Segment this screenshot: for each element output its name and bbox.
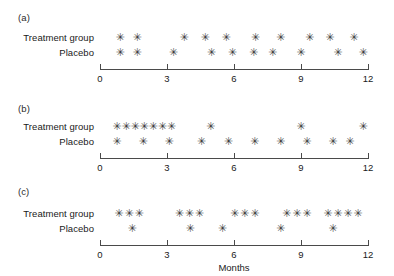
event-marker-placebo: ✳ [302, 136, 311, 147]
x-axis-tick [301, 64, 302, 70]
event-marker-treatment: ✳ [250, 208, 259, 219]
event-marker-treatment: ✳ [140, 121, 149, 132]
x-axis-tick-label: 12 [363, 73, 374, 84]
event-marker-treatment: ✳ [201, 32, 210, 43]
x-axis-tick-label: 6 [231, 73, 236, 84]
event-marker-placebo: ✳ [276, 136, 285, 147]
panel-b: (b) Treatment group Placebo ✳✳✳✳✳✳✳✳✳✳✳✳… [0, 95, 394, 185]
event-marker-placebo: ✳ [328, 136, 337, 147]
event-marker-placebo: ✳ [276, 223, 285, 234]
panel-c-plot: ✳✳✳✳✳✳✳✳✳✳✳✳✳✳✳✳✳✳✳✳✳036912 [0, 180, 394, 276]
event-marker-treatment: ✳ [282, 208, 291, 219]
event-marker-treatment: ✳ [132, 32, 141, 43]
x-axis-tick [234, 240, 235, 246]
event-marker-treatment: ✳ [222, 32, 231, 43]
event-marker-treatment: ✳ [115, 32, 124, 43]
event-marker-treatment: ✳ [114, 208, 123, 219]
x-axis-tick [368, 64, 369, 70]
event-marker-treatment: ✳ [175, 208, 184, 219]
event-marker-treatment: ✳ [180, 32, 189, 43]
panel-a-plot: ✳✳✳✳✳✳✳✳✳✳✳✳✳✳✳✳✳✳✳✳036912 [0, 0, 394, 95]
event-marker-treatment: ✳ [325, 32, 334, 43]
event-marker-placebo: ✳ [115, 47, 124, 58]
event-marker-placebo: ✳ [358, 47, 367, 58]
event-marker-treatment: ✳ [349, 32, 358, 43]
event-marker-placebo: ✳ [169, 47, 178, 58]
event-marker-treatment: ✳ [130, 121, 139, 132]
x-axis-tick-label: 12 [363, 249, 374, 260]
x-axis-tick-label: 9 [298, 162, 303, 173]
x-axis-tick-label: 0 [97, 73, 102, 84]
x-axis-tick [234, 64, 235, 70]
event-marker-placebo: ✳ [186, 223, 195, 234]
event-marker-placebo: ✳ [197, 136, 206, 147]
event-marker-treatment: ✳ [333, 208, 342, 219]
event-marker-treatment: ✳ [134, 208, 143, 219]
event-marker-placebo: ✳ [250, 136, 259, 147]
event-marker-treatment: ✳ [323, 208, 332, 219]
x-axis-tick [301, 153, 302, 159]
x-axis-tick [234, 153, 235, 159]
x-axis-tick [368, 153, 369, 159]
event-marker-placebo: ✳ [268, 47, 277, 58]
event-marker-placebo: ✳ [207, 47, 216, 58]
event-marker-treatment: ✳ [185, 208, 194, 219]
event-marker-placebo: ✳ [112, 136, 121, 147]
x-axis-tick [167, 64, 168, 70]
event-marker-treatment: ✳ [149, 121, 158, 132]
x-axis-tick-label: 0 [97, 162, 102, 173]
event-marker-placebo: ✳ [328, 223, 337, 234]
event-marker-treatment: ✳ [276, 32, 285, 43]
panel-b-plot: ✳✳✳✳✳✳✳✳✳✳✳✳✳✳✳✳✳✳✳✳036912 [0, 95, 394, 185]
event-marker-treatment: ✳ [124, 208, 133, 219]
x-axis-tick-label: 0 [97, 249, 102, 260]
event-marker-treatment: ✳ [206, 121, 215, 132]
panel-a: (a) Treatment group Placebo ✳✳✳✳✳✳✳✳✳✳✳✳… [0, 0, 394, 95]
event-marker-treatment: ✳ [296, 121, 305, 132]
event-marker-placebo: ✳ [128, 223, 137, 234]
x-axis-tick-label: 3 [164, 162, 169, 173]
event-timeline-figure: (a) Treatment group Placebo ✳✳✳✳✳✳✳✳✳✳✳✳… [0, 0, 394, 276]
x-axis-tick [100, 240, 101, 246]
x-axis-title: Months [218, 262, 249, 273]
x-axis-tick-label: 9 [298, 249, 303, 260]
event-marker-placebo: ✳ [333, 47, 342, 58]
event-marker-treatment: ✳ [358, 121, 367, 132]
event-marker-treatment: ✳ [251, 32, 260, 43]
event-marker-treatment: ✳ [305, 32, 314, 43]
event-marker-treatment: ✳ [230, 208, 239, 219]
x-axis-tick-label: 6 [231, 162, 236, 173]
event-marker-placebo: ✳ [249, 47, 258, 58]
event-marker-treatment: ✳ [158, 121, 167, 132]
event-marker-treatment: ✳ [302, 208, 311, 219]
event-marker-placebo: ✳ [345, 136, 354, 147]
event-marker-treatment: ✳ [343, 208, 352, 219]
event-marker-placebo: ✳ [132, 47, 141, 58]
event-marker-placebo: ✳ [228, 47, 237, 58]
x-axis-tick-label: 3 [164, 73, 169, 84]
x-axis-tick [167, 153, 168, 159]
x-axis-tick [167, 240, 168, 246]
event-marker-treatment: ✳ [112, 121, 121, 132]
x-axis-tick-label: 6 [231, 249, 236, 260]
x-axis-tick-label: 3 [164, 249, 169, 260]
event-marker-placebo: ✳ [165, 136, 174, 147]
event-marker-treatment: ✳ [240, 208, 249, 219]
x-axis-tick [100, 153, 101, 159]
x-axis-tick [368, 240, 369, 246]
x-axis-tick [301, 240, 302, 246]
x-axis-tick [100, 64, 101, 70]
x-axis-tick-label: 12 [363, 162, 374, 173]
x-axis-tick-label: 9 [298, 73, 303, 84]
event-marker-placebo: ✳ [138, 136, 147, 147]
event-marker-treatment: ✳ [195, 208, 204, 219]
event-marker-treatment: ✳ [122, 121, 131, 132]
event-marker-treatment: ✳ [353, 208, 362, 219]
event-marker-treatment: ✳ [167, 121, 176, 132]
event-marker-treatment: ✳ [292, 208, 301, 219]
event-marker-placebo: ✳ [218, 223, 227, 234]
panel-c: (c) Treatment group Placebo ✳✳✳✳✳✳✳✳✳✳✳✳… [0, 180, 394, 276]
event-marker-placebo: ✳ [296, 47, 305, 58]
event-marker-placebo: ✳ [224, 136, 233, 147]
